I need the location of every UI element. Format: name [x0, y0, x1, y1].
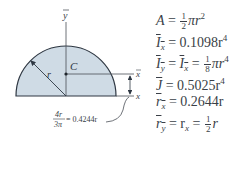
- equals: =: [165, 13, 180, 28]
- fraction: 18: [204, 55, 211, 74]
- equals: =: [188, 56, 203, 71]
- equals: =: [165, 56, 180, 71]
- fraction: 12: [205, 115, 212, 134]
- offset-leader-line: [106, 97, 129, 122]
- centroid-label: C: [70, 60, 78, 72]
- exponent: 2: [200, 11, 205, 21]
- formula-ry-bar: ry = rx = 12r: [156, 115, 218, 136]
- formula-area: A = 12πr2: [156, 8, 205, 31]
- area-rhs: πr: [188, 13, 200, 28]
- exponent: 4: [224, 54, 229, 64]
- formula-rx-bar: rx = 0.2644r: [156, 94, 224, 114]
- fraction-den: 2: [205, 125, 212, 134]
- iy-rhs: πr: [212, 56, 224, 71]
- j-value: = 0.5025r: [162, 78, 220, 93]
- radius-label: r: [47, 69, 51, 80]
- area-symbol: A: [156, 13, 165, 28]
- formula-j-bar: J = 0.5025r4: [156, 73, 225, 94]
- centroid-point: [64, 72, 67, 75]
- exponent: 4: [220, 76, 225, 86]
- offset-denominator: 3π: [53, 120, 63, 129]
- x-bar-axis-label: x: [135, 69, 140, 79]
- ry-rhs: r: [212, 116, 217, 131]
- equals: =: [189, 116, 204, 131]
- rx-value: = 0.2644r: [165, 94, 223, 109]
- exponent: 4: [223, 33, 228, 43]
- ix-value: = 0.1098r: [165, 35, 223, 50]
- offset-numerator: 4r: [55, 110, 63, 119]
- equals-r: = r: [165, 116, 185, 131]
- x-axis-label: x: [135, 91, 140, 101]
- offset-value: = 0.4244r: [66, 115, 98, 124]
- fraction: 12: [180, 12, 187, 31]
- y-bar-axis-label: y: [62, 10, 68, 21]
